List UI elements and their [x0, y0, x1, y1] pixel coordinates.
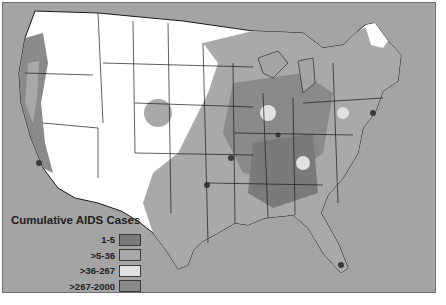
legend-swatch [119, 265, 141, 277]
legend-item: >36-267 [11, 263, 141, 279]
legend-swatch [119, 280, 141, 292]
legend-label: >267-2000 [69, 281, 115, 292]
map-frame: Cumulative AIDS Cases 1-5 >5-36 >36-267 … [2, 2, 436, 293]
legend-title: Cumulative AIDS Cases [11, 214, 141, 226]
legend-label: 1-5 [101, 234, 115, 245]
legend-swatch [119, 234, 141, 246]
legend-item: >267-2000 [11, 279, 141, 294]
legend-label: >36-267 [80, 265, 115, 276]
map-legend: Cumulative AIDS Cases 1-5 >5-36 >36-267 … [11, 214, 141, 293]
legend-item: >5-36 [11, 248, 141, 264]
legend-swatch [119, 249, 141, 261]
legend-label: >5-36 [90, 250, 115, 261]
legend-item: 1-5 [11, 232, 141, 248]
